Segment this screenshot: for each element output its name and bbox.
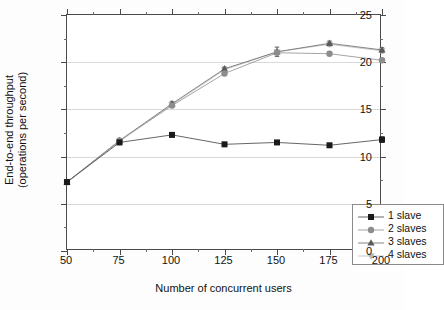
y-axis-label: 15 (360, 103, 372, 115)
x-axis-label: 175 (319, 254, 337, 266)
legend-label: 2 slaves (386, 222, 427, 234)
data-point (117, 139, 123, 145)
x-axis-title: Number of concurrent users (66, 282, 381, 294)
y-axis-label: 25 (360, 9, 372, 21)
y-axis-title: End-to-end throughput (operations per se… (3, 20, 29, 240)
data-point (327, 142, 333, 148)
plot-area: 1 slave2 slaves3 slaves4 slaves 05101520… (66, 14, 381, 250)
data-layer (67, 15, 380, 249)
legend-marker-square-icon (356, 209, 386, 221)
data-point (64, 179, 70, 185)
x-axis-label: 100 (162, 254, 180, 266)
legend-item-1-slave: 1 slave (356, 208, 439, 221)
x-axis-label: 75 (112, 254, 124, 266)
y-axis-label: 20 (360, 56, 372, 68)
legend-label: 1 slave (386, 209, 421, 221)
y-axis-label: 10 (360, 151, 372, 163)
legend-label: 4 slaves (386, 248, 427, 260)
y-axis-label: 5 (366, 198, 372, 210)
x-axis-tick (382, 9, 383, 15)
x-axis-label: 125 (214, 254, 232, 266)
series-1-slave (67, 15, 382, 251)
y-axis-title-line-1: End-to-end throughput (3, 20, 16, 240)
x-axis-label: 200 (372, 254, 390, 266)
legend-marker-circle-icon (356, 222, 386, 234)
y-axis-title-line-2: (operations per second) (16, 20, 29, 240)
x-axis-label: 150 (267, 254, 285, 266)
legend-item-2-slaves: 2 slaves (356, 221, 439, 234)
data-point (379, 137, 385, 143)
legend-label: 3 slaves (386, 235, 427, 247)
x-axis-label: 50 (60, 254, 72, 266)
data-point (169, 132, 175, 138)
data-point (222, 141, 228, 147)
data-point (274, 139, 280, 145)
